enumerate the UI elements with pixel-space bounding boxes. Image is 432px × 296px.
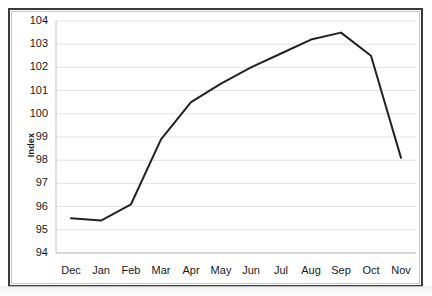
y-tick-label: 99 [18, 131, 48, 142]
y-tick-label: 96 [18, 201, 48, 212]
y-tick-label: 101 [18, 85, 48, 96]
y-tick-label: 94 [18, 247, 48, 258]
x-tick-label: Nov [381, 265, 421, 276]
y-tick-label: 98 [18, 154, 48, 165]
y-tick-label: 97 [18, 177, 48, 188]
y-tick-label: 100 [18, 108, 48, 119]
chart-figure-inner-border: Index 949596979899100101102103104 DecJan… [11, 11, 420, 284]
y-tick-label: 102 [18, 61, 48, 72]
y-tick-label: 104 [18, 15, 48, 26]
y-tick-label: 103 [18, 38, 48, 49]
scan-artifact-strip [0, 286, 432, 296]
y-tick-label: 95 [18, 224, 48, 235]
chart-figure: Index 949596979899100101102103104 DecJan… [8, 8, 423, 287]
line-chart-plot [12, 12, 423, 287]
